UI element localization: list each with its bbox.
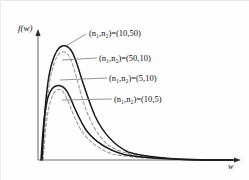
f-distribution-plot [0,0,249,180]
y-axis [35,29,40,160]
curve-label-50-10: (n₁,n₂)=(50,10) [99,53,151,63]
curve-50-10 [43,52,232,160]
curve-label-5-10: (n₁,n₂)=(5,10) [109,73,157,83]
figure-container: f(w) w (n₁,n₂)=(10,50) (n₁,n₂)=(50,10) (… [0,0,249,180]
leader-line-50-10 [62,58,97,60]
y-axis-label: f(w) [18,23,33,33]
x-axis-label: w [228,162,233,171]
leader-line-10-5 [62,99,112,100]
leader-line-10-50 [66,34,86,46]
curve-label-10-5: (n₁,n₂)=(10,5) [114,94,162,104]
curve-label-10-50: (n₁,n₂)=(10,50) [89,28,141,38]
leader-line-5-10 [60,78,107,80]
